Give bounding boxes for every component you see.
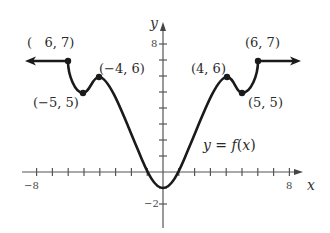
x-axis-label: x <box>307 178 315 192</box>
function-label-y: y <box>203 137 211 153</box>
point-6-7 <box>255 58 261 64</box>
point-neg6-7 <box>65 58 71 64</box>
function-label-equals: = <box>211 137 232 153</box>
x-tick-label-neg8: −8 <box>24 181 39 191</box>
label-point-neg5-5: (−5, 5) <box>33 96 79 109</box>
x-tick-label-8: 8 <box>286 181 292 191</box>
y-axis-arrow-icon <box>160 22 166 31</box>
label-point-4-6: (4, 6) <box>191 62 226 75</box>
function-label-close-paren: ) <box>250 137 255 153</box>
point-5-5 <box>239 90 245 96</box>
label-point-5-5: (5, 5) <box>248 96 283 109</box>
y-tick-label-8: 8 <box>151 39 157 49</box>
function-label: y = f(x) <box>203 138 256 152</box>
function-label-x: x <box>242 137 250 153</box>
left-ray <box>25 57 68 66</box>
x-axis-arrow-icon <box>294 169 303 175</box>
label-point-neg6-7: ( 6, 7) <box>27 36 74 49</box>
label-point-6-7: (6, 7) <box>245 36 280 49</box>
point-neg5-5 <box>80 90 86 96</box>
y-axis-label: y <box>150 16 158 30</box>
y-tick-label-neg2: −2 <box>144 199 159 209</box>
right-ray <box>258 57 301 66</box>
y-axis <box>159 22 167 228</box>
label-point-neg4-6: (−4, 6) <box>99 62 145 75</box>
